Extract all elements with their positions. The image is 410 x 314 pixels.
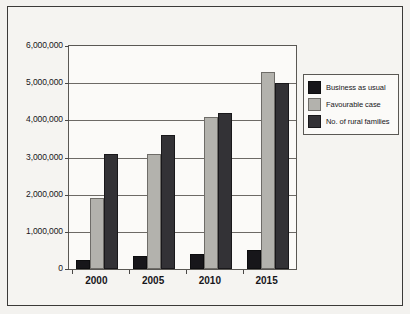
legend-label: Business as usual [326,83,386,92]
bar [147,154,161,269]
bar-chart-figure: 01,000,0002,000,0003,000,0004,000,0005,0… [0,0,410,314]
y-axis-label: 5,000,000 [26,77,63,87]
legend-swatch-icon [308,98,321,111]
x-axis-label: 2005 [142,275,164,286]
y-axis-label: 6,000,000 [26,40,63,50]
bar [76,260,90,269]
legend-item: Business as usual [308,79,394,96]
bar-group [69,46,126,269]
y-axis-label: 2,000,000 [26,189,63,199]
x-axis-label: 2015 [256,275,278,286]
legend-label: No. of rural families [326,117,390,126]
x-axis-tick [129,270,130,274]
y-axis-label: 4,000,000 [26,114,63,124]
plot-area [68,45,297,270]
chart-legend: Business as usualFavourable caseNo. of r… [303,74,399,135]
bar [247,250,261,269]
x-axis-label: 2000 [85,275,107,286]
y-axis-label: 1,000,000 [26,226,63,236]
bar [204,117,218,269]
bar [190,254,204,269]
bar-group [239,46,296,269]
legend-label: Favourable case [326,100,381,109]
bar [104,154,118,269]
legend-item: Favourable case [308,96,394,113]
bar [161,135,175,269]
x-axis-tick [186,270,187,274]
bar [218,113,232,269]
bar [133,256,147,269]
y-axis-label: 0 [58,263,63,273]
bar [275,83,289,269]
legend-swatch-icon [308,81,321,94]
bar-group [183,46,240,269]
y-axis: 01,000,0002,000,0003,000,0004,000,0005,0… [0,45,63,270]
x-axis-label: 2010 [199,275,221,286]
bar-group [126,46,183,269]
y-axis-label: 3,000,000 [26,152,63,162]
x-axis-tick [243,270,244,274]
legend-swatch-icon [308,115,321,128]
x-axis: 2000200520102015 [68,275,297,291]
legend-item: No. of rural families [308,113,394,130]
bar [90,198,104,269]
x-axis-tick [72,270,73,274]
bar [261,72,275,269]
